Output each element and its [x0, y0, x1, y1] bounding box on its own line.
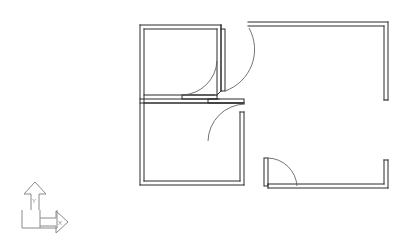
floor-plan-drawing[interactable]: Y X	[0, 0, 417, 247]
ucs-x-label: X	[58, 220, 62, 226]
door-bottom-wall	[264, 158, 297, 186]
ucs-x-arrow-icon	[40, 211, 68, 233]
floor-plan-canvas[interactable]: Y X	[0, 0, 417, 247]
wall-right-lower	[384, 160, 388, 188]
wall-bottom-right	[268, 184, 388, 188]
wall-left-exterior	[140, 25, 144, 185]
door-upper-left-room	[182, 61, 217, 99]
wall-partition-right	[217, 25, 221, 95]
wall-right-upper	[384, 22, 388, 100]
ucs-y-arrow-icon	[24, 182, 46, 210]
door-upper-right	[221, 28, 255, 91]
wall-bottom-left	[140, 181, 244, 185]
wall-group-interior	[140, 25, 244, 185]
ucs-y-label: Y	[32, 198, 36, 204]
wall-lower-right-jamb	[240, 112, 244, 185]
wall-top-left	[140, 25, 221, 29]
door-divider-wall	[208, 99, 245, 141]
wall-top-right	[248, 22, 388, 26]
ucs-axis-indicator[interactable]: Y X	[22, 182, 68, 233]
